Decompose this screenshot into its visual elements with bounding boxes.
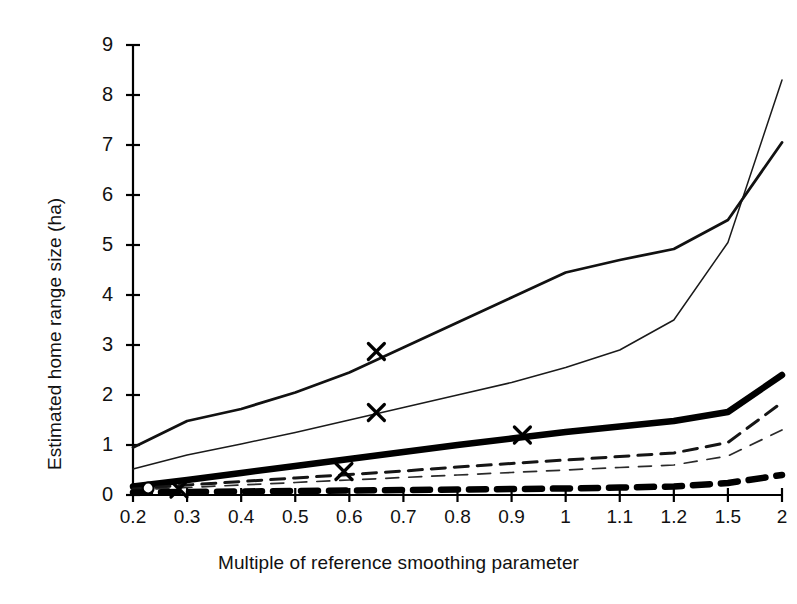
x-axis-tick-label: 0.8 — [432, 507, 484, 527]
dot-marker-origin — [143, 483, 154, 494]
y-axis-tick-label: 3 — [87, 334, 113, 354]
y-axis-tick-label: 9 — [87, 34, 113, 54]
x-axis-tick-label: 0.6 — [323, 507, 375, 527]
x-axis-tick-label: 1 — [540, 507, 592, 527]
axes-group — [126, 45, 782, 502]
figure-root: Estimated home range size (ha) Multiple … — [0, 0, 797, 604]
series-line-thick-solid-middle — [133, 375, 782, 487]
series-group — [133, 80, 782, 493]
x-axis-tick-label: 0.7 — [377, 507, 429, 527]
x-axis-tick-label: 0.4 — [215, 507, 267, 527]
x-axis-tick-label: 0.3 — [161, 507, 213, 527]
x-axis-tick-label: 1.2 — [648, 507, 700, 527]
y-axis-tick-label: 1 — [87, 434, 113, 454]
x-axis-tick-label: 1.1 — [594, 507, 646, 527]
markers-group — [143, 344, 531, 498]
x-axis-tick-label: 1.5 — [702, 507, 754, 527]
x-axis-tick-label: 0.2 — [107, 507, 159, 527]
y-axis-tick-label: 5 — [87, 234, 113, 254]
y-axis-tick-label: 7 — [87, 134, 113, 154]
y-axis-tick-label: 6 — [87, 184, 113, 204]
x-axis-tick-label: 0.5 — [269, 507, 321, 527]
x-axis-tick-label: 0.9 — [486, 507, 538, 527]
y-axis-tick-label: 8 — [87, 84, 113, 104]
x-marker-medium-solid — [368, 344, 384, 360]
y-axis-tick-label: 4 — [87, 284, 113, 304]
y-axis-tick-label: 2 — [87, 384, 113, 404]
series-line-medium-solid-upper — [133, 143, 782, 448]
x-marker-thin-dashed — [336, 464, 352, 480]
x-axis-tick-label: 2 — [756, 507, 797, 527]
y-axis-tick-label: 0 — [87, 484, 113, 504]
